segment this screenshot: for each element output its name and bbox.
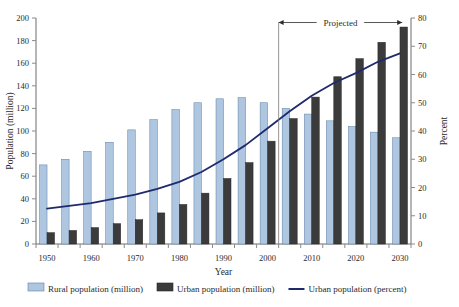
x-ticklabel: 1990 [215, 253, 232, 263]
bar-urban [47, 233, 55, 244]
bar-rural [370, 132, 378, 244]
bar-urban [356, 59, 364, 244]
bar-rural [62, 159, 69, 244]
y-ticklabel-right: 20 [418, 183, 427, 193]
y-ticklabel-left: 160 [16, 58, 29, 68]
bar-rural [40, 165, 48, 244]
bar-urban [113, 224, 121, 244]
y-ticklabel-right: 0 [418, 239, 422, 249]
legend-label: Rural population (million) [48, 284, 143, 294]
y-ticklabel-left: 180 [16, 36, 29, 46]
y-ticklabel-left: 20 [21, 216, 30, 226]
legend-swatch-rural [28, 283, 44, 291]
x-axis-title: Year [215, 267, 233, 277]
x-ticklabel: 1950 [39, 253, 56, 263]
bar-urban [334, 77, 342, 244]
y-ticklabel-right: 40 [418, 126, 427, 136]
legend-label: Urban population (million) [177, 284, 274, 294]
y-ticklabel-right: 30 [418, 154, 427, 164]
bar-rural [304, 114, 312, 244]
bar-rural [392, 138, 400, 244]
y-ticklabel-left: 100 [16, 126, 29, 136]
legend-swatch-urban [157, 283, 173, 291]
bar-rural [260, 103, 268, 244]
bar-rural [106, 142, 114, 244]
population-chart: 0204060801001201401601802000102030405060… [0, 0, 459, 307]
bar-urban [157, 213, 165, 244]
x-ticklabel: 2030 [391, 253, 408, 263]
y-ticklabel-left: 0 [25, 239, 29, 249]
bar-rural [282, 108, 290, 244]
y-ticklabel-left: 120 [16, 103, 29, 113]
bar-urban [246, 163, 254, 244]
y-ticklabel-right: 50 [418, 98, 427, 108]
y-ticklabel-right: 70 [418, 41, 427, 51]
y-axis-title-right: Percent [439, 116, 449, 145]
bar-urban [290, 119, 298, 244]
projected-arrowhead-right [397, 20, 402, 25]
y-ticklabel-right: 10 [418, 211, 427, 221]
y-axis-title-left: Population (million) [5, 92, 16, 169]
y-ticklabel-left: 60 [21, 171, 30, 181]
projected-label: Projected [323, 18, 357, 28]
x-ticklabel: 1960 [83, 253, 100, 263]
bar-urban [201, 193, 209, 244]
y-ticklabel-left: 40 [21, 194, 30, 204]
bar-urban [69, 230, 77, 244]
bar-urban [312, 97, 320, 244]
y-ticklabel-left: 140 [16, 81, 29, 91]
chart-canvas: 0204060801001201401601802000102030405060… [0, 0, 459, 307]
bar-rural [128, 130, 136, 244]
bar-urban [224, 178, 232, 244]
projected-arrowhead-left [279, 20, 284, 25]
bar-urban [135, 220, 143, 244]
bar-rural [238, 98, 246, 244]
bar-urban [91, 228, 99, 244]
y-ticklabel-left: 200 [16, 13, 29, 23]
bar-rural [84, 151, 92, 244]
x-ticklabel: 2000 [259, 253, 276, 263]
bar-rural [348, 126, 356, 244]
bar-urban [179, 204, 187, 244]
y-ticklabel-left: 80 [21, 149, 30, 159]
y-ticklabel-right: 60 [418, 70, 427, 80]
x-ticklabel: 1980 [171, 253, 188, 263]
x-ticklabel: 2020 [347, 253, 364, 263]
bar-rural [326, 121, 334, 244]
y-ticklabel-right: 80 [418, 13, 427, 23]
x-ticklabel: 1970 [127, 253, 144, 263]
x-ticklabel: 2010 [303, 253, 320, 263]
bar-rural [150, 120, 158, 244]
bar-urban [400, 27, 408, 244]
bar-rural [216, 99, 224, 244]
bar-rural [172, 110, 180, 244]
legend-label: Urban population (percent) [308, 284, 406, 294]
bar-urban [268, 141, 276, 244]
bar-urban [378, 42, 386, 244]
cropped-title-remnant [62, 0, 212, 6]
